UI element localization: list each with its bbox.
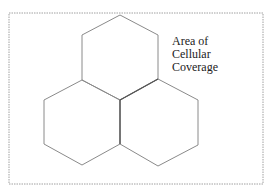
coverage-label-line-3: Coverage	[172, 61, 218, 74]
cellular-coverage-diagram	[0, 0, 271, 194]
